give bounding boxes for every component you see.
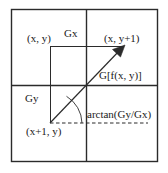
label-bottom-left-point: (x+1, y) bbox=[26, 126, 62, 137]
label-angle: arctan(Gy/Gx) bbox=[87, 109, 151, 120]
label-top-left-point: (x, y) bbox=[27, 33, 51, 44]
gradient-diagram-figure: (x, y) Gx (x, y+1) G[f(x, y)] Gy arctan(… bbox=[0, 0, 168, 173]
label-top-right-point: (x, y+1) bbox=[104, 33, 140, 44]
label-gradient-magnitude: G[f(x, y)] bbox=[99, 70, 142, 81]
label-horizontal-component: Gx bbox=[64, 28, 77, 39]
angle-arc bbox=[67, 96, 83, 123]
label-vertical-component: Gy bbox=[25, 93, 38, 104]
diagram-canvas bbox=[0, 0, 168, 173]
